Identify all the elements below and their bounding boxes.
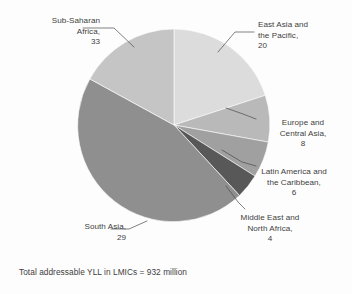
pie-label-south-asia: South Asia, 29 — [44, 222, 126, 243]
pie-label-europe-and-central-asia: Europe and Central Asia, 8 — [258, 118, 348, 150]
chart-footnote: Total addressable YLL in LMICs = 932 mil… — [19, 267, 187, 278]
pie-chart-figure: Sub-Saharan Africa, 33 East Asia and the… — [0, 0, 352, 294]
pie-label-east-asia-and-the-pacific: East Asia and the Pacific, 20 — [258, 20, 348, 52]
pie-label-middle-east-and-north-africa: Middle East and North Africa, 4 — [218, 213, 322, 245]
pie-label-sub-saharan-africa: Sub-Saharan Africa, 33 — [6, 16, 100, 48]
pie-label-latin-america-and-the-caribbean: Latin America and the Caribbean, 6 — [238, 167, 350, 199]
